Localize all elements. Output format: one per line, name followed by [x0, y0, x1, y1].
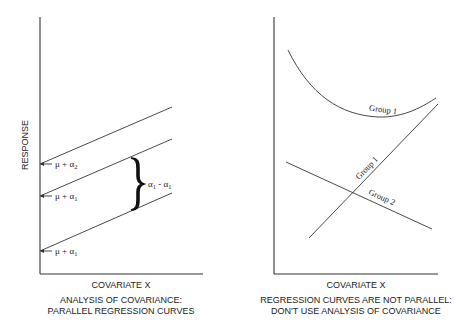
left-x-axis-label: COVARIATE X: [91, 280, 150, 290]
svg-text:μ + α1: μ + α1: [55, 246, 77, 257]
intercept-marker-3: μ + α1: [40, 246, 77, 257]
svg-text:μ + α2: μ + α2: [55, 159, 77, 170]
covariance-diagram: RESPONSE μ + α2 μ + α1 μ + α1: [0, 0, 455, 321]
bracket-label: α1 - α1: [148, 179, 171, 190]
left-y-axis-label: RESPONSE: [20, 120, 30, 170]
regression-line-group2: [40, 107, 172, 164]
group1-curve-label: Group 1: [369, 103, 398, 117]
group2-line-label: Group 2: [367, 187, 397, 208]
right-panel: Group 1 Group 1 Group 2 COVARIATE X REGR…: [260, 17, 452, 316]
group1-line: [309, 104, 438, 238]
right-x-axis-label: COVARIATE X: [326, 280, 385, 290]
group1-curve: [288, 50, 436, 117]
right-caption-line1: REGRESSION CURVES ARE NOT PARALLEL:: [260, 295, 452, 305]
svg-text:μ + α1: μ + α1: [55, 191, 77, 202]
intercept-marker-2: μ + α1: [40, 191, 77, 202]
left-caption-line2: PARALLEL REGRESSION CURVES: [48, 306, 195, 316]
left-panel: RESPONSE μ + α2 μ + α1 μ + α1: [20, 17, 203, 316]
right-caption-line2: DON'T USE ANALYSIS OF COVARIANCE: [271, 306, 441, 316]
regression-line-group3: [40, 193, 172, 251]
curly-brace: [131, 158, 144, 210]
intercept-marker-1: μ + α2: [40, 159, 77, 170]
left-caption-line1: ANALYSIS OF COVARIANCE:: [60, 295, 182, 305]
